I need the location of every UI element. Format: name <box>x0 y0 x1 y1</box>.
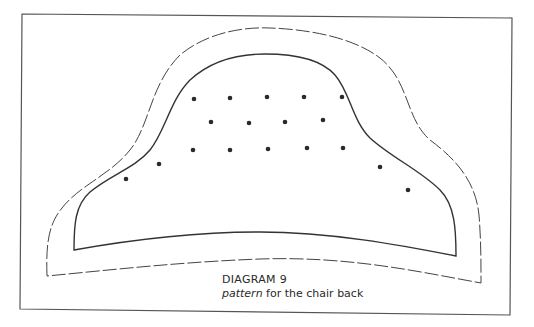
tuft-dot <box>265 95 270 100</box>
tuft-dot <box>340 95 345 100</box>
subtitle-italic: pattern <box>222 287 263 300</box>
diagram-subtitle: pattern for the chair back <box>222 287 363 301</box>
tuft-dot <box>378 165 383 170</box>
frame-border <box>20 14 512 315</box>
tuft-dot <box>283 120 288 125</box>
seam-line-solid <box>74 54 456 256</box>
diagram-caption: DIAGRAM 9 pattern for the chair back <box>222 273 363 301</box>
tuft-dot <box>124 177 129 182</box>
tuft-dot <box>321 118 326 123</box>
tuft-dot <box>191 148 196 153</box>
subtitle-rest: for the chair back <box>263 287 364 300</box>
tuft-dot <box>228 96 233 101</box>
diagram-title: DIAGRAM 9 <box>222 273 363 287</box>
tuft-dot <box>192 97 197 102</box>
tuft-dot <box>406 188 411 193</box>
tuft-dot <box>266 147 271 152</box>
cutting-line-dashed <box>47 28 481 283</box>
tuft-dot <box>209 120 214 125</box>
tuft-dot <box>247 121 252 126</box>
tuft-dot <box>228 148 233 153</box>
tuft-dots <box>124 95 411 193</box>
tuft-dot <box>305 146 310 151</box>
tuft-dot <box>157 162 162 167</box>
tuft-dot <box>341 146 346 151</box>
tuft-dot <box>302 95 307 100</box>
